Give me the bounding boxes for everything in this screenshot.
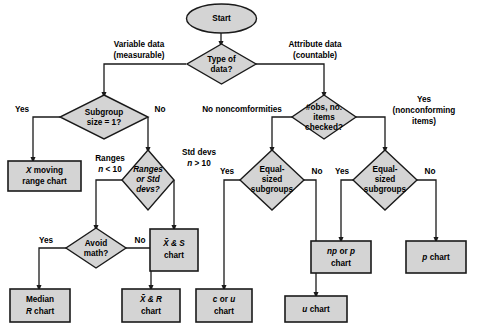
median-r-line2: R chart: [26, 307, 54, 316]
xbar-r-line1: X̄ & R: [139, 294, 162, 304]
equal-sized-left-line3: subgroups: [251, 185, 294, 194]
equal-right-yes-label: Yes: [335, 167, 350, 176]
node-p-chart[interactable]: p chart: [406, 241, 466, 273]
label-attribute-data: Attribute data (countable): [288, 40, 342, 60]
xbar-s-line2: chart: [164, 251, 184, 260]
avoid-math-line1: Avoid: [85, 239, 107, 248]
yes-nonconforming-line3: items): [412, 117, 436, 126]
attribute-data-line1: Attribute data: [288, 40, 342, 49]
avoid-no-label: No: [135, 236, 146, 245]
edge-type-to-subgroup: [104, 64, 186, 95]
yes-nonconforming-line1: Yes: [417, 95, 432, 104]
figure-caption: [0, 325, 483, 334]
node-xbar-s-chart[interactable]: X̄ & S chart: [150, 229, 198, 271]
avoid-yes-label: Yes: [39, 236, 54, 245]
np-or-p-line2: chart: [331, 259, 351, 268]
node-start[interactable]: Start: [187, 4, 257, 33]
node-x-moving-range-chart[interactable]: X moving range chart: [8, 161, 81, 191]
equal-sized-left-line1: Equal-: [259, 165, 284, 174]
label-variable-data: Variable data (measurable): [114, 40, 165, 60]
node-equal-sized-subgroups-right[interactable]: Equal- sized subgroups: [353, 150, 417, 210]
equal-sized-right-line3: subgroups: [364, 185, 407, 194]
node-avoid-math[interactable]: Avoid math?: [66, 228, 126, 268]
edge-eqright-yes: [341, 180, 353, 240]
type-of-data-label-line1: Type of: [207, 55, 236, 64]
x-moving-range-line1: X moving: [25, 166, 63, 175]
edge-obs-right: [356, 117, 385, 150]
xbar-r-line2: chart: [141, 307, 161, 316]
p-chart-label: p chart: [421, 253, 450, 262]
avoid-math-line2: math?: [84, 249, 109, 258]
c-or-u-line1: c or u: [213, 295, 235, 304]
node-obs-items-checked[interactable]: #obs, no. items checked?: [292, 95, 356, 139]
edge-eqleft-yes: [224, 180, 240, 288]
np-or-p-line1: np or p: [327, 247, 355, 256]
std-devs-line2: n > 10: [187, 159, 211, 168]
edge-type-to-obs: [256, 64, 324, 95]
c-or-u-line2: chart: [214, 307, 234, 316]
edge-avoid-no: [126, 248, 151, 288]
node-c-or-u-chart[interactable]: c or u chart: [196, 289, 252, 322]
node-type-of-data[interactable]: Type of data?: [187, 44, 256, 84]
xbar-s-line1: X̄ & S: [162, 238, 185, 248]
u-chart-label: u chart: [302, 305, 330, 314]
edge-eqright-no: [417, 180, 436, 240]
node-u-chart[interactable]: u chart: [285, 296, 347, 322]
equal-left-yes-label: Yes: [220, 167, 235, 176]
edge-eqleft-no: [304, 180, 316, 295]
obs-items-line2: items: [313, 113, 335, 122]
ranges-line2: n < 10: [98, 165, 122, 174]
flowchart-container: Start Type of data? Variable data (measu…: [0, 0, 483, 334]
subgroup-size-line2: size = 1?: [87, 118, 121, 127]
edge-avoid-yes: [39, 248, 66, 288]
ranges-or-std-line3: devs?: [136, 185, 160, 194]
median-r-line1: Median: [26, 295, 54, 304]
edge-ranges-left: [96, 180, 122, 228]
flowchart-diagram: Start Type of data? Variable data (measu…: [0, 0, 483, 334]
attribute-data-line2: (countable): [293, 51, 337, 60]
node-ranges-or-std-devs[interactable]: Ranges or Std devs?: [122, 150, 174, 210]
edge-subgroup-yes: [33, 117, 60, 160]
edge-obs-left: [272, 117, 292, 150]
obs-items-line1: #obs, no.: [306, 103, 342, 112]
std-devs-line1: Std devs: [182, 148, 217, 157]
node-median-r-chart[interactable]: Median R chart: [10, 289, 70, 322]
label-ranges: Ranges n < 10: [95, 154, 125, 174]
equal-left-no-label: No: [312, 167, 323, 176]
equal-sized-left-line2: sized: [262, 175, 282, 184]
node-subgroup-size[interactable]: Subgroup size = 1?: [60, 95, 148, 139]
subgroup-size-line1: Subgroup: [85, 108, 124, 117]
equal-right-no-label: No: [425, 167, 436, 176]
subgroup-yes-label: Yes: [15, 105, 30, 114]
ranges-line1: Ranges: [95, 154, 125, 163]
yes-nonconforming-line2: (nonconforming: [393, 106, 456, 115]
x-moving-range-line2: range chart: [22, 177, 67, 186]
variable-data-line1: Variable data: [114, 40, 165, 49]
start-label: Start: [212, 14, 231, 23]
equal-sized-right-line2: sized: [375, 175, 395, 184]
node-equal-sized-subgroups-left[interactable]: Equal- sized subgroups: [240, 150, 304, 210]
ranges-or-std-line1: Ranges: [133, 165, 163, 174]
node-xbar-r-chart[interactable]: X̄ & R chart: [122, 289, 180, 322]
node-np-or-p-chart[interactable]: np or p chart: [311, 241, 371, 273]
label-std-devs: Std devs n > 10: [182, 148, 217, 168]
equal-sized-right-line1: Equal-: [372, 165, 397, 174]
subgroup-no-label: No: [155, 105, 166, 114]
variable-data-line2: (measurable): [114, 51, 165, 60]
label-yes-nonconforming: Yes (nonconforming items): [393, 95, 456, 126]
type-of-data-label-line2: data?: [211, 65, 233, 74]
xbar-s-box: [150, 229, 198, 271]
obs-items-line3: checked?: [305, 123, 343, 132]
ranges-or-std-line2: or Std: [136, 175, 161, 184]
no-noncomformities-label: No noncomformities: [202, 105, 282, 114]
